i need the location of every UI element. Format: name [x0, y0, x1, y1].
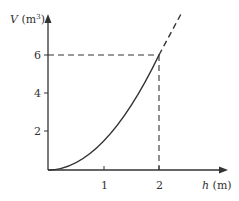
x-axis-arrow-icon	[219, 167, 228, 174]
y-axis-arrow-icon	[45, 14, 52, 23]
y-tick-label-6: 6	[34, 49, 41, 62]
x-tick-label-2: 2	[156, 179, 163, 192]
volume-curve	[48, 55, 159, 170]
y-tick-label-2: 2	[34, 125, 41, 138]
chart: 2 4 6 1 2 V (m3) h (m)	[0, 0, 239, 201]
x-axis-label: h (m)	[202, 179, 232, 192]
y-axis-label: V (m3)	[10, 13, 45, 26]
x-tick-label-1: 1	[101, 179, 108, 192]
curve-extension-dashed	[159, 14, 181, 55]
y-tick-label-4: 4	[34, 87, 41, 100]
